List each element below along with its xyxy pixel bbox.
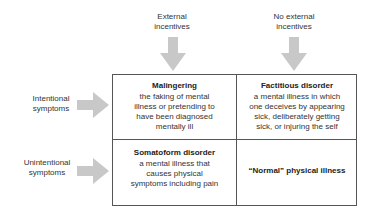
cell-desc-line: illness or pretending to <box>134 102 215 112</box>
row-label-intentional-symptoms: Intentional symptoms <box>24 94 78 114</box>
cell-desc-line: a mental illness that <box>139 159 210 169</box>
cell-title: Somatoform disorder <box>134 148 215 158</box>
column-label-external-incentives: External incentives <box>140 12 204 32</box>
arrow-right-icon <box>77 158 109 184</box>
cell-desc-line: have been diagnosed <box>136 112 213 122</box>
row-label-line: symptoms <box>24 104 78 114</box>
cell-desc-line: sick, deliberately getting <box>254 112 339 122</box>
classification-grid: Malingering the faking of mental illness… <box>112 74 357 206</box>
row-label-line: Intentional <box>24 94 78 104</box>
column-label-line: incentives <box>262 22 326 32</box>
cell-desc-line: causes physical <box>146 169 202 179</box>
row-label-unintentional-symptoms: Unintentional symptoms <box>16 158 78 178</box>
arrow-down-icon <box>160 37 186 71</box>
arrow-down-icon <box>281 37 307 71</box>
cell-title: Malingering <box>152 81 197 91</box>
cell-normal-physical-illness: “Normal” physical illness <box>237 140 357 206</box>
cell-title: “Normal” physical illness <box>249 166 346 176</box>
cell-desc-line: the faking of mental <box>140 92 210 102</box>
cell-title: Factitious disorder <box>261 81 333 91</box>
arrow-right-icon <box>77 92 109 118</box>
cell-desc-line: one deceives by appearing <box>249 102 345 112</box>
cell-desc-line: a mental illness in which <box>254 92 340 102</box>
cell-factitious-disorder: Factitious disorder a mental illness in … <box>237 81 357 139</box>
column-label-line: incentives <box>140 22 204 32</box>
cell-desc-line: symptoms including pain <box>131 179 219 189</box>
column-label-no-external-incentives: No external incentives <box>262 12 326 32</box>
column-label-line: External <box>140 12 204 22</box>
cell-somatoform-disorder: Somatoform disorder a mental illness tha… <box>113 148 236 206</box>
row-label-line: Unintentional <box>16 158 78 168</box>
cell-malingering: Malingering the faking of mental illness… <box>113 81 236 139</box>
cell-desc-line: mentally ill <box>156 122 193 132</box>
column-label-line: No external <box>262 12 326 22</box>
row-label-line: symptoms <box>16 168 78 178</box>
cell-desc-line: sick, or injuring the self <box>256 122 337 132</box>
